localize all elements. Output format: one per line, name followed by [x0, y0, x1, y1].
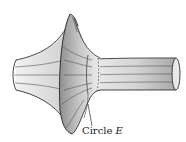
circle-e-label-prefix: Circle: [82, 125, 116, 136]
surface-diagram: [0, 0, 186, 142]
tube-end-ellipse: [172, 58, 180, 90]
right-tube: [92, 58, 180, 90]
label-leader-line: [88, 104, 92, 126]
flared-rim: [59, 14, 100, 134]
circle-e-label: Circle E: [82, 126, 123, 136]
left-bell: [13, 28, 66, 122]
circle-e-label-name: E: [116, 125, 123, 136]
